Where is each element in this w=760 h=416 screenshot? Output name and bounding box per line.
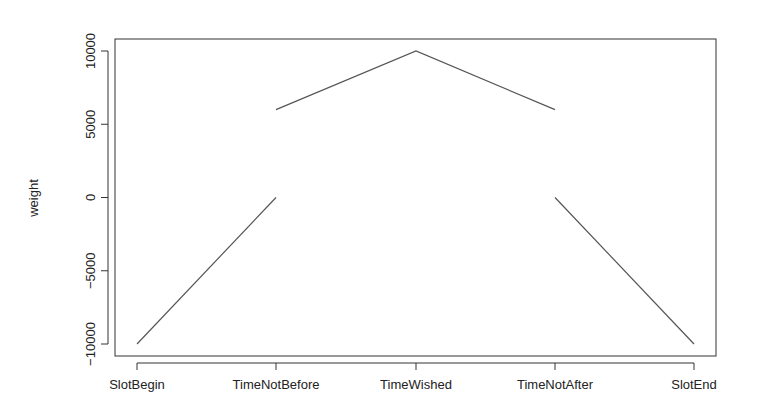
y-axis: −10000−50000500010000 <box>83 33 108 366</box>
x-tick-label: SlotBegin <box>109 377 165 392</box>
x-tick-label: TimeWished <box>380 377 452 392</box>
y-tick-label: −10000 <box>83 322 98 366</box>
data-lines <box>137 51 694 344</box>
x-tick-label: TimeNotAfter <box>517 377 594 392</box>
plot-frame <box>115 39 716 356</box>
line-segment-peak <box>276 51 555 110</box>
x-tick-label: SlotEnd <box>671 377 717 392</box>
line-segment-fall <box>555 198 694 345</box>
y-axis-title: weight <box>26 179 41 218</box>
line-segment-rise <box>137 198 276 345</box>
line-chart: −10000−50000500010000 SlotBeginTimeNotBe… <box>0 0 760 416</box>
x-axis: SlotBeginTimeNotBeforeTimeWishedTimeNotA… <box>109 363 717 392</box>
x-tick-label: TimeNotBefore <box>233 377 320 392</box>
y-tick-label: 10000 <box>83 33 98 69</box>
y-tick-label: 0 <box>83 194 98 201</box>
y-tick-label: 5000 <box>83 110 98 139</box>
y-tick-label: −5000 <box>83 252 98 289</box>
